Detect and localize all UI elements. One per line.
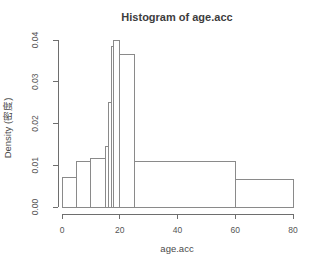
histogram-bar (76, 161, 90, 207)
histogram-bar (62, 178, 76, 207)
x-tick-label: 20 (115, 225, 125, 235)
x-tick-label: 40 (173, 225, 183, 235)
histogram-bar (114, 40, 120, 207)
histogram-bar (91, 159, 105, 207)
histogram-bar (120, 55, 134, 207)
histogram-bar (134, 161, 235, 207)
x-tick-label: 0 (60, 225, 65, 235)
histogram-canvas: Histogram of age.acc 0204060800.000.010.… (0, 0, 313, 271)
plot-window: Histogram of age.acc 0204060800.000.010.… (0, 0, 313, 271)
plot-area: 0204060800.000.010.020.030.04 (30, 31, 298, 235)
y-tick-label: 0.01 (30, 157, 40, 174)
y-tick-label: 0.03 (30, 73, 40, 90)
y-axis-label: Density (密度) (2, 98, 13, 159)
y-tick-label: 0.00 (30, 198, 40, 215)
y-tick-label: 0.02 (30, 115, 40, 132)
x-tick-label: 60 (231, 225, 241, 235)
x-tick-label: 80 (288, 225, 298, 235)
x-axis-label: age.acc (160, 243, 194, 254)
histogram-bar (235, 180, 293, 207)
chart-title: Histogram of age.acc (121, 11, 232, 23)
y-tick-label: 0.04 (30, 31, 40, 48)
